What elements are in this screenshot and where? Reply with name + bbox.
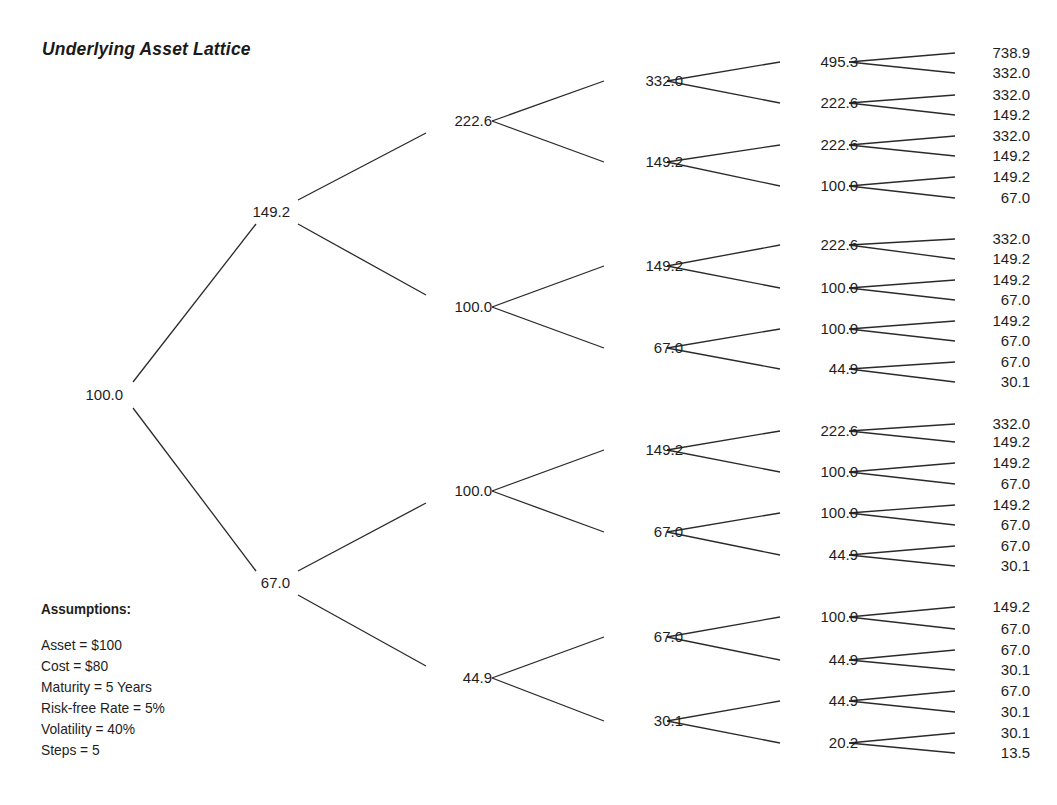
lattice-node-value: 495.3 bbox=[820, 53, 858, 70]
up-branch-line bbox=[492, 637, 604, 678]
up-branch-line bbox=[849, 362, 955, 369]
up-branch-line bbox=[667, 245, 780, 266]
lattice-node-value: 149.2 bbox=[992, 433, 1030, 450]
down-branch-line bbox=[298, 595, 426, 666]
lattice-node-value: 222.6 bbox=[820, 94, 858, 111]
up-branch-line bbox=[849, 424, 955, 431]
lattice-node-value: 149.2 bbox=[992, 271, 1030, 288]
up-branch-line bbox=[492, 266, 604, 307]
lattice-node-value: 149.2 bbox=[992, 312, 1030, 329]
lattice-node-value: 332.0 bbox=[992, 230, 1030, 247]
assumption-maturity: Maturity = 5 Years bbox=[41, 676, 165, 697]
lattice-node-value: 67.0 bbox=[1001, 641, 1030, 658]
lattice-node-value: 30.1 bbox=[1001, 661, 1030, 678]
down-branch-line bbox=[849, 186, 955, 198]
up-branch-line bbox=[667, 431, 780, 450]
lattice-node-value: 30.1 bbox=[654, 712, 683, 729]
down-branch-line bbox=[667, 532, 780, 555]
lattice-node-value: 67.0 bbox=[1001, 475, 1030, 492]
down-branch-line bbox=[849, 701, 955, 712]
lattice-node-value: 149.2 bbox=[992, 168, 1030, 185]
down-branch-line bbox=[298, 224, 426, 295]
lattice-node-value: 30.1 bbox=[1001, 703, 1030, 720]
up-branch-line bbox=[849, 505, 955, 513]
up-branch-line bbox=[849, 607, 955, 617]
down-branch-line bbox=[667, 162, 780, 186]
lattice-node-value: 149.2 bbox=[992, 598, 1030, 615]
lattice-node-value: 67.0 bbox=[654, 339, 683, 356]
assumptions-heading: Assumptions: bbox=[41, 598, 162, 619]
lattice-node-value: 67.0 bbox=[654, 523, 683, 540]
lattice-node-value: 149.2 bbox=[992, 496, 1030, 513]
lattice-node-value: 67.0 bbox=[261, 574, 290, 591]
lattice-node-value: 149.2 bbox=[645, 257, 683, 274]
down-branch-line bbox=[849, 431, 955, 442]
up-branch-line bbox=[667, 329, 780, 348]
assumption-cost: Cost = $80 bbox=[41, 655, 165, 676]
lattice-node-value: 44.9 bbox=[829, 546, 858, 563]
down-branch-line bbox=[667, 81, 780, 103]
up-branch-line bbox=[849, 53, 955, 62]
up-branch-line bbox=[849, 177, 955, 186]
lattice-node-value: 332.0 bbox=[992, 64, 1030, 81]
lattice-node-value: 100.0 bbox=[820, 177, 858, 194]
down-branch-line bbox=[849, 329, 955, 341]
down-branch-line bbox=[849, 369, 955, 382]
lattice-node-value: 332.0 bbox=[992, 86, 1030, 103]
lattice-node-value: 44.9 bbox=[829, 651, 858, 668]
lattice-node-value: 149.2 bbox=[252, 203, 290, 220]
lattice-node-value: 44.9 bbox=[829, 692, 858, 709]
up-branch-line bbox=[667, 145, 780, 162]
lattice-node-value: 67.0 bbox=[1001, 189, 1030, 206]
up-branch-line bbox=[298, 133, 426, 200]
down-branch-line bbox=[849, 245, 955, 259]
down-branch-line bbox=[849, 145, 955, 156]
down-branch-line bbox=[849, 62, 955, 73]
down-branch-line bbox=[849, 660, 955, 670]
up-branch-line bbox=[849, 650, 955, 660]
lattice-node-value: 67.0 bbox=[1001, 332, 1030, 349]
lattice-node-value: 67.0 bbox=[1001, 537, 1030, 554]
lattice-node-value: 100.0 bbox=[454, 298, 492, 315]
up-branch-line bbox=[849, 691, 955, 701]
up-branch-line bbox=[667, 62, 780, 81]
down-branch-line bbox=[849, 472, 955, 484]
down-branch-line bbox=[849, 617, 955, 629]
assumptions-panel: Assumptions: Asset = $100 Cost = $80 Mat… bbox=[41, 598, 176, 760]
lattice-node-value: 67.0 bbox=[1001, 620, 1030, 637]
up-branch-line bbox=[849, 733, 955, 743]
lattice-node-value: 149.2 bbox=[992, 147, 1030, 164]
down-branch-line bbox=[492, 491, 604, 532]
lattice-node-value: 30.1 bbox=[1001, 557, 1030, 574]
lattice-node-value: 222.6 bbox=[820, 136, 858, 153]
lattice-node-value: 332.0 bbox=[645, 72, 683, 89]
up-branch-line bbox=[667, 701, 780, 721]
up-branch-line bbox=[849, 463, 955, 472]
lattice-node-value: 738.9 bbox=[992, 44, 1030, 61]
up-branch-line bbox=[849, 280, 955, 288]
lattice-node-value: 67.0 bbox=[1001, 516, 1030, 533]
assumption-risk-free-rate: Risk-free Rate = 5% bbox=[41, 697, 165, 718]
lattice-edges bbox=[133, 53, 955, 753]
lattice-node-value: 100.0 bbox=[820, 608, 858, 625]
lattice-node-value: 149.2 bbox=[645, 441, 683, 458]
assumption-asset: Asset = $100 bbox=[41, 634, 165, 655]
lattice-node-value: 222.6 bbox=[820, 422, 858, 439]
up-branch-line bbox=[492, 450, 604, 491]
down-branch-line bbox=[667, 266, 780, 288]
down-branch-line bbox=[849, 555, 955, 566]
lattice-node-value: 100.0 bbox=[820, 463, 858, 480]
lattice-node-value: 20.2 bbox=[829, 734, 858, 751]
up-branch-line bbox=[492, 81, 604, 121]
up-branch-line bbox=[667, 513, 780, 532]
assumption-steps: Steps = 5 bbox=[41, 739, 165, 760]
down-branch-line bbox=[849, 513, 955, 525]
up-branch-line bbox=[849, 95, 955, 103]
up-branch-line bbox=[133, 224, 256, 382]
down-branch-line bbox=[849, 743, 955, 753]
down-branch-line bbox=[667, 348, 780, 369]
lattice-node-value: 67.0 bbox=[1001, 291, 1030, 308]
lattice-node-value: 222.6 bbox=[820, 236, 858, 253]
down-branch-line bbox=[667, 721, 780, 743]
lattice-node-value: 44.9 bbox=[463, 669, 492, 686]
